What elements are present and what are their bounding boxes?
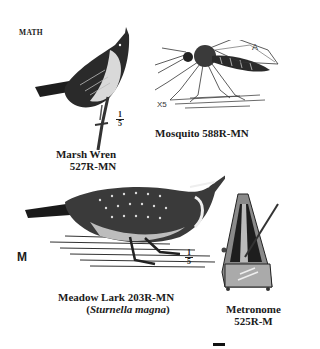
metronome-illustration [220,192,290,292]
mosquito-illustration [150,40,285,115]
scale-denominator: 5 [187,257,191,266]
scale-denominator: 5 [118,119,122,128]
marsh-wren-scale: 1 5 [116,111,124,128]
mosquito-marker-label: A [252,42,258,52]
metronome-caption: Metronome 525R-M [216,303,291,327]
scale-numerator: 1 [118,110,122,119]
meadow-lark-name: Meadow Lark 203R-MN [58,291,174,303]
marsh-wren-caption: Marsh Wren 527R-MN [46,148,126,172]
meadow-lark-scale: 1 5 [185,249,193,266]
scale-numerator: 1 [187,248,191,257]
meadow-lark-illustration [20,172,225,277]
scientific-name: Sturnella magna [90,303,166,315]
metronome-name: Metronome [216,303,291,315]
page-mark [213,343,225,346]
mosquito-caption: Mosquito 588R-MN [155,127,249,139]
marsh-wren-code: 527R-MN [46,160,126,172]
metronome-code: 525R-M [216,315,291,327]
meadow-lark-scientific: (Sturnella magna) [58,303,174,315]
marsh-wren-name: Marsh Wren [46,148,126,160]
mosquito-magnification-label: X5 [157,100,167,109]
meadow-lark-caption: Meadow Lark 203R-MN (Sturnella magna) [58,291,174,315]
marsh-wren-illustration [30,25,140,150]
